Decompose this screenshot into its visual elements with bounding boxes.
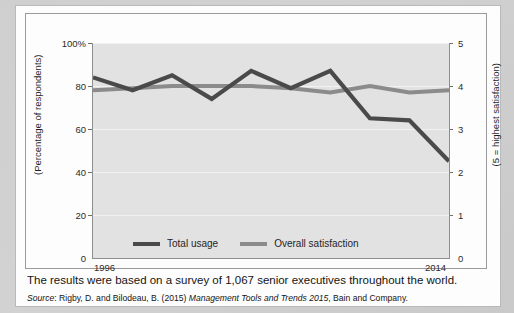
y-axis-right-tick-5: 5 [458, 39, 478, 49]
y-axis-left-tick-20: 20 [48, 211, 86, 221]
x-axis-tick-start: 1996 [94, 263, 115, 273]
figure-source: Source: Rigby, D. and Bilodeau, B. (2015… [27, 294, 408, 303]
screenshot-root: (Percentage of respondents) (5 = highest… [0, 0, 514, 313]
legend-swatch-total-usage [133, 242, 160, 246]
y-axis-left-tick-60: 60 [48, 125, 86, 135]
source-label: Source [27, 293, 54, 303]
source-authors: Rigby, D. and Bilodeau, B. (2015) [59, 293, 189, 303]
legend-item-overall-satisfaction: Overall satisfaction [240, 239, 358, 249]
source-publisher: , Bain and Company. [328, 293, 408, 303]
y-axis-left-tick-0: 0 [48, 254, 86, 264]
legend-swatch-overall-satisfaction [240, 242, 267, 246]
series-line-total-usage [93, 71, 449, 161]
legend-label-overall-satisfaction: Overall satisfaction [274, 239, 358, 249]
document-page: (Percentage of respondents) (5 = highest… [16, 6, 500, 306]
figure-caption: The results were based on a survey of 1,… [27, 274, 457, 287]
y-axis-right-tick-3: 3 [458, 125, 478, 135]
plot-area: Total usage Overall satisfaction [92, 43, 450, 259]
y-axis-left-tick-80: 80 [48, 82, 86, 92]
chart-series-svg [93, 43, 449, 258]
y-axis-right-tick-4: 4 [458, 82, 478, 92]
legend-label-total-usage: Total usage [167, 239, 218, 249]
x-axis-tick-end: 2014 [425, 263, 446, 273]
y-axis-left-title: (Percentage of respondents) [33, 10, 43, 220]
chart-figure: (Percentage of respondents) (5 = highest… [25, 13, 487, 269]
y-axis-right-tick-1: 1 [458, 211, 478, 221]
y-axis-left-tick-40: 40 [48, 168, 86, 178]
y-axis-right-tick-2: 2 [458, 168, 478, 178]
legend-item-total-usage: Total usage [133, 239, 218, 249]
y-axis-right-tick-0: 0 [458, 254, 478, 264]
chart-legend: Total usage Overall satisfaction [133, 239, 359, 249]
y-axis-left-tick-100: 100% [48, 39, 86, 49]
y-axis-right-title: (5 = highest satisfaction) [491, 10, 501, 220]
source-title: Management Tools and Trends 2015 [189, 293, 329, 303]
